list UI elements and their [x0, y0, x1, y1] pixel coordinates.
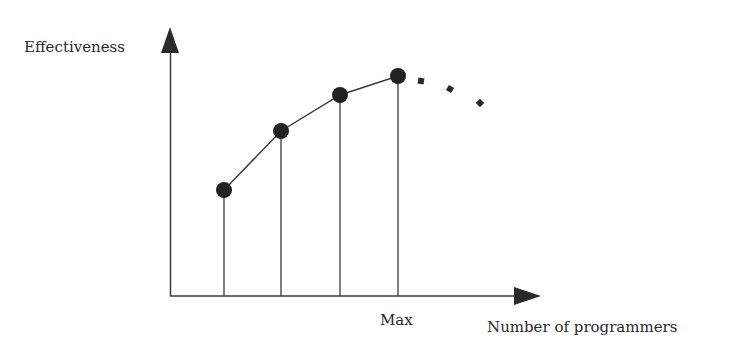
effectiveness-line	[224, 76, 398, 190]
decline-dots	[418, 78, 485, 108]
y-axis-label: Effectiveness	[24, 38, 125, 56]
y-axis-arrow-icon	[161, 27, 179, 53]
x-axis-label: Number of programmers	[487, 318, 678, 336]
data-point	[216, 182, 232, 198]
data-point-max	[390, 68, 406, 84]
data-point	[273, 123, 289, 139]
x-axis-arrow-icon	[514, 287, 541, 305]
effectiveness-diagram: Effectiveness Max Number of programmers	[0, 0, 739, 349]
x-tick-max: Max	[380, 311, 413, 329]
data-point	[332, 87, 348, 103]
data-points	[216, 68, 406, 198]
drop-lines	[224, 76, 398, 296]
